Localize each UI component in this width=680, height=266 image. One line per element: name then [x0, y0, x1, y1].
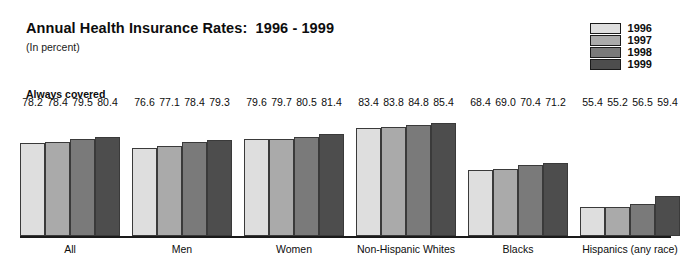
legend-label: 1999 [628, 58, 652, 70]
bar-rect [518, 165, 543, 236]
bar-rect [381, 127, 406, 236]
bar-group-bars: 78.278.479.580.4 [20, 110, 120, 236]
bar-rect [605, 207, 630, 236]
bar-value-label: 79.3 [209, 96, 229, 108]
bar-rect [493, 169, 518, 236]
bar-rect [207, 140, 232, 236]
category-label: Blacks [468, 243, 568, 255]
bar-all-1997: 78.4 [45, 110, 70, 236]
bar-value-label: 81.4 [321, 96, 341, 108]
bar-rect [20, 143, 45, 236]
bar-value-label: 68.4 [470, 96, 490, 108]
chart-legend: 1996199719981999 [590, 22, 652, 70]
bar-rect [468, 170, 493, 236]
bar-value-label: 83.4 [358, 96, 378, 108]
bar-non-hispanic-whites-1996: 83.4 [356, 110, 381, 236]
legend-label: 1997 [628, 34, 652, 46]
bar-value-label: 80.5 [296, 96, 316, 108]
legend-swatch-1997 [590, 35, 621, 46]
bar-value-label: 55.2 [607, 96, 627, 108]
chart-title: Annual Health Insurance Rates: 1996 - 19… [26, 20, 334, 36]
legend-item: 1998 [590, 46, 652, 58]
bar-group-bars: 83.483.884.885.4 [356, 110, 456, 236]
category-label: Men [132, 243, 232, 255]
bar-non-hispanic-whites-1997: 83.8 [381, 110, 406, 236]
bar-rect [630, 204, 655, 236]
bar-group: 68.469.070.471.2 [468, 110, 568, 236]
bar-women-1996: 79.6 [244, 110, 269, 236]
bar-value-label: 78.2 [22, 96, 42, 108]
bar-group: 76.677.178.479.3 [132, 110, 232, 236]
bar-rect [95, 137, 120, 236]
bar-value-label: 79.7 [271, 96, 291, 108]
legend-swatch-1999 [590, 59, 621, 70]
bar-rect [157, 146, 182, 236]
bar-group: 78.278.479.580.4 [20, 110, 120, 236]
bar-rect [294, 137, 319, 236]
bar-rect [70, 139, 95, 236]
bar-rect [356, 128, 381, 236]
bar-hispanics-any-race--1999: 59.4 [655, 110, 680, 236]
legend-swatch-1996 [590, 23, 621, 34]
bar-value-label: 71.2 [545, 96, 565, 108]
bar-group: 83.483.884.885.4 [356, 110, 456, 236]
bar-all-1998: 79.5 [70, 110, 95, 236]
bar-men-1999: 79.3 [207, 110, 232, 236]
bar-blacks-1999: 71.2 [543, 110, 568, 236]
category-label: All [20, 243, 120, 255]
bar-value-label: 85.4 [433, 96, 453, 108]
bar-value-label: 55.4 [582, 96, 602, 108]
legend-swatch-1998 [590, 47, 621, 58]
bar-group-bars: 68.469.070.471.2 [468, 110, 568, 236]
bar-value-label: 84.8 [408, 96, 428, 108]
plot-area: 78.278.479.580.476.677.178.479.379.679.7… [20, 110, 670, 236]
bar-value-label: 77.1 [159, 96, 179, 108]
bar-blacks-1998: 70.4 [518, 110, 543, 236]
title-block: Annual Health Insurance Rates: 1996 - 19… [26, 20, 334, 53]
legend-item: 1996 [590, 22, 652, 34]
bar-value-label: 69.0 [495, 96, 515, 108]
legend-label: 1996 [628, 22, 652, 34]
bar-rect [406, 125, 431, 236]
x-axis-line [20, 236, 671, 238]
bar-value-label: 56.5 [632, 96, 652, 108]
legend-label: 1998 [628, 46, 652, 58]
legend-item: 1999 [590, 58, 652, 70]
bar-value-label: 80.4 [97, 96, 117, 108]
bar-all-1999: 80.4 [95, 110, 120, 236]
bar-women-1999: 81.4 [319, 110, 344, 236]
legend-item: 1997 [590, 34, 652, 46]
bar-blacks-1997: 69.0 [493, 110, 518, 236]
bar-men-1997: 77.1 [157, 110, 182, 236]
bar-value-label: 78.4 [47, 96, 67, 108]
bar-rect [431, 123, 456, 236]
category-label: Women [244, 243, 344, 255]
bar-group-bars: 55.455.256.559.4 [580, 110, 680, 236]
bar-value-label: 78.4 [184, 96, 204, 108]
bar-hispanics-any-race--1998: 56.5 [630, 110, 655, 236]
bar-group-bars: 79.679.780.581.4 [244, 110, 344, 236]
bar-value-label: 76.6 [134, 96, 154, 108]
bar-rect [655, 196, 680, 236]
chart-subtitle: (In percent) [26, 41, 334, 53]
bar-rect [132, 148, 157, 236]
bar-group-bars: 76.677.178.479.3 [132, 110, 232, 236]
bar-blacks-1996: 68.4 [468, 110, 493, 236]
bar-rect [543, 163, 568, 236]
bar-group: 79.679.780.581.4 [244, 110, 344, 236]
bar-value-label: 79.6 [246, 96, 266, 108]
bar-women-1998: 80.5 [294, 110, 319, 236]
bar-value-label: 83.8 [383, 96, 403, 108]
bar-men-1998: 78.4 [182, 110, 207, 236]
bar-rect [244, 139, 269, 236]
bar-value-label: 79.5 [72, 96, 92, 108]
bar-women-1997: 79.7 [269, 110, 294, 236]
bar-hispanics-any-race--1997: 55.2 [605, 110, 630, 236]
bar-value-label: 70.4 [520, 96, 540, 108]
bar-group: 55.455.256.559.4 [580, 110, 680, 236]
bar-rect [45, 142, 70, 236]
bar-rect [269, 139, 294, 236]
bar-men-1996: 76.6 [132, 110, 157, 236]
category-label: Non-Hispanic Whites [356, 243, 456, 255]
